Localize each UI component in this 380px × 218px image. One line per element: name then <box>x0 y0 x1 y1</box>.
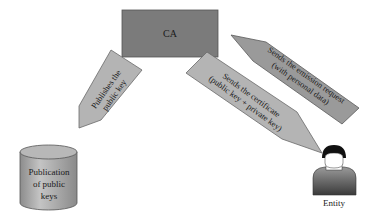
pki-diagram: CA Publishes the public key Sends the em… <box>0 0 380 218</box>
publication-label-line1: Publication <box>29 167 70 177</box>
publication-label-line2: of public <box>33 179 65 189</box>
publish-arrow: Publishes the public key <box>79 50 142 128</box>
publication-database: Publication of public keys <box>20 145 77 210</box>
entity-label: Entity <box>323 198 345 208</box>
entity-node: Entity <box>313 145 356 208</box>
ca-node: CA <box>122 10 218 57</box>
ca-label: CA <box>163 28 178 39</box>
publication-label-line3: keys <box>41 191 58 201</box>
